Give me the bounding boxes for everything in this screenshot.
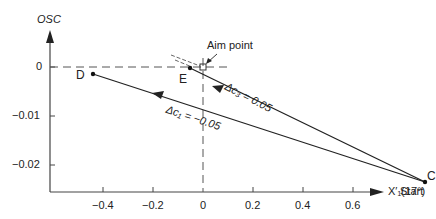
- x-tick-label: −0.4: [92, 200, 114, 211]
- y-tick-label: −0.01: [12, 110, 40, 121]
- x-axis-arrow-icon: [370, 188, 384, 196]
- y-axis-label: OSC: [37, 14, 61, 25]
- point-c-label: C: [427, 170, 436, 182]
- path-c-to-d: [93, 74, 425, 182]
- y-tick-label: −0.02: [12, 159, 40, 170]
- x-tick-label: 0: [200, 200, 206, 211]
- start-label: Start: [400, 186, 423, 197]
- direction-arrow-icon: [152, 91, 164, 99]
- point-e-label: E: [179, 73, 187, 85]
- direction-arrow-icon: [212, 85, 224, 93]
- x-tick-label: 0.6: [345, 200, 360, 211]
- aim-point-label: Aim point: [207, 40, 253, 51]
- x-tick-label: 0.2: [245, 200, 260, 211]
- x-tick-label: 0.4: [295, 200, 310, 211]
- point-d-label: D: [76, 69, 85, 81]
- y-axis-arrow-icon: [46, 30, 54, 43]
- point-e: [188, 66, 192, 70]
- x-tick-label: −0.2: [142, 200, 164, 211]
- point-d: [91, 72, 95, 76]
- y-tick-label: 0: [36, 61, 42, 72]
